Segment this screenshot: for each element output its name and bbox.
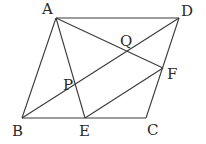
segment-ab xyxy=(22,18,56,118)
segment-ef xyxy=(85,68,163,118)
segments-group xyxy=(22,18,179,118)
labels-group: ADBCEFPQ xyxy=(12,0,193,140)
geometry-diagram: ADBCEFPQ xyxy=(0,0,206,144)
segment-af xyxy=(56,18,163,68)
point-label-e: E xyxy=(79,122,90,140)
point-label-b: B xyxy=(12,122,23,140)
point-label-f: F xyxy=(167,65,177,83)
point-label-c: C xyxy=(147,121,158,139)
segment-bd xyxy=(22,18,179,118)
point-label-p: P xyxy=(63,76,73,94)
point-label-q: Q xyxy=(120,32,132,50)
segment-ae xyxy=(56,18,85,118)
point-label-d: D xyxy=(181,2,193,20)
point-label-a: A xyxy=(41,0,53,18)
